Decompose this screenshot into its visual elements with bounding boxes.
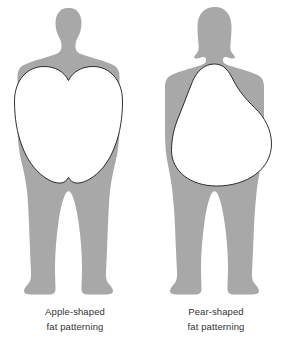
caption-pear-line2: fat patterning: [188, 321, 245, 332]
figure-canvas: Apple-shaped fat patterning Pear-shaped …: [0, 0, 282, 343]
caption-apple-line2: fat patterning: [47, 321, 104, 332]
caption-pear-line1: Pear-shaped: [188, 306, 244, 317]
caption-apple-line1: Apple-shaped: [45, 306, 105, 317]
fat-patterning-figure: Apple-shaped fat patterning Pear-shaped …: [0, 0, 282, 343]
